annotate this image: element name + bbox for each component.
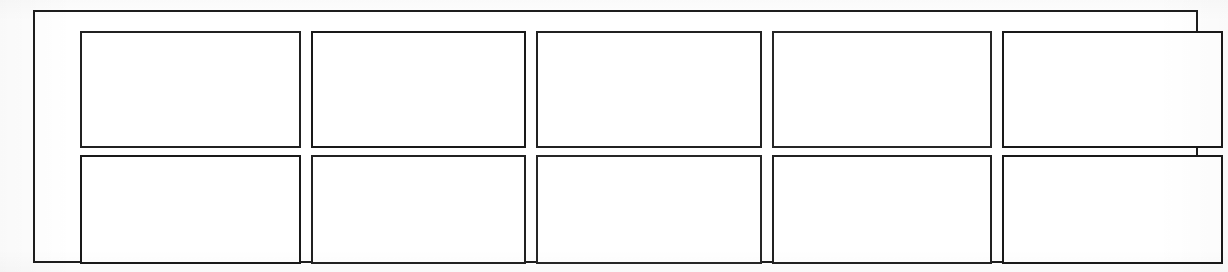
grid-cell-r1c4[interactable] (772, 31, 992, 148)
cell-grid (80, 31, 1223, 264)
grid-cell-label (313, 157, 524, 262)
grid-cell-r2c4[interactable] (772, 155, 992, 264)
grid-cell-r1c3[interactable] (536, 31, 762, 148)
grid-cell-label (1004, 33, 1221, 146)
grid-cell-r2c3[interactable] (536, 155, 762, 264)
grid-cell-label (82, 157, 299, 262)
outer-border-frame (33, 10, 1198, 263)
grid-cell-r2c1[interactable] (80, 155, 301, 264)
grid-cell-label (1004, 157, 1221, 262)
grid-cell-r2c5[interactable] (1002, 155, 1223, 264)
grid-cell-r1c5[interactable] (1002, 31, 1223, 148)
grid-cell-label (82, 33, 299, 146)
grid-cell-label (313, 33, 524, 146)
grid-cell-r1c2[interactable] (311, 31, 526, 148)
grid-cell-label (774, 33, 990, 146)
grid-cell-r1c1[interactable] (80, 31, 301, 148)
grid-cell-label (774, 157, 990, 262)
grid-cell-label (538, 33, 760, 146)
grid-cell-r2c2[interactable] (311, 155, 526, 264)
sheet-canvas (0, 0, 1228, 272)
grid-cell-label (538, 157, 760, 262)
